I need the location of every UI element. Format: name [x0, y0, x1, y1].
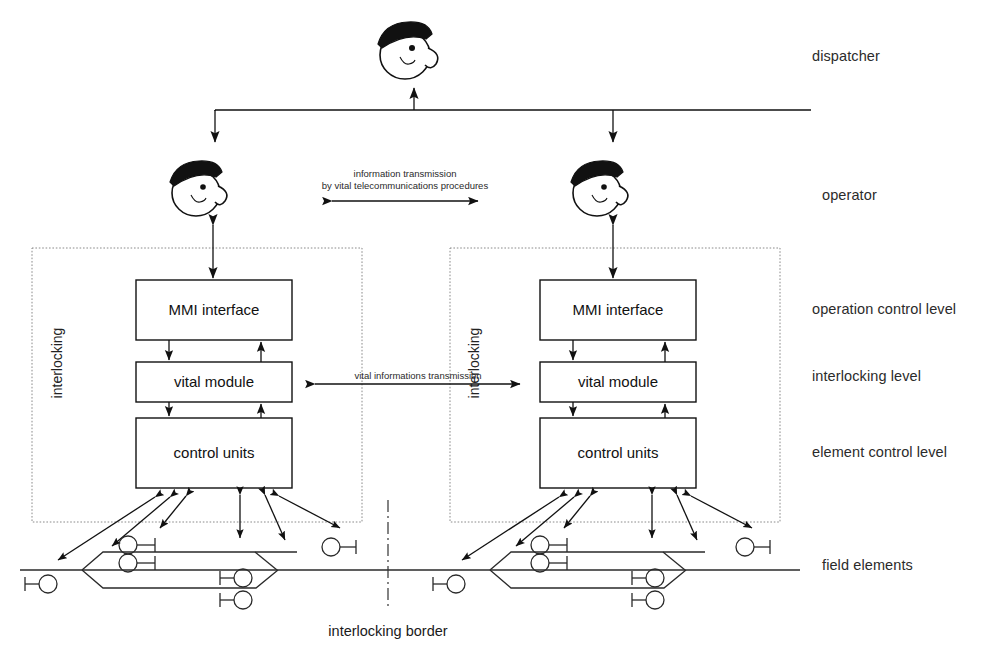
unit-label-mmi-right: MMI interface	[573, 301, 664, 318]
telecom-line-1: information transmission	[354, 168, 457, 179]
signal-icon	[433, 575, 465, 593]
signal-icon	[119, 536, 155, 554]
unit-label-control-right: control units	[578, 444, 659, 461]
level-label-interlocking: interlocking level	[812, 368, 921, 384]
field-links-left	[58, 495, 340, 560]
vital-transmission-annotation: vital informations transmission	[315, 370, 520, 384]
interlocking-group-label-right: interlocking	[466, 328, 482, 399]
unit-label-vital-right: vital module	[578, 373, 658, 390]
vital-transmission-label: vital informations transmission	[354, 370, 481, 381]
telecom-line-2: by vital telecommunications procedures	[322, 180, 489, 191]
field-links-right	[462, 495, 752, 560]
interlocking-group-label-left: interlocking	[49, 328, 65, 399]
unit-label-mmi-left: MMI interface	[169, 301, 260, 318]
dispatcher-bus-connector	[215, 88, 811, 142]
signal-icon	[220, 591, 252, 609]
unit-box-control-right: control units	[540, 418, 696, 488]
level-label-dispatcher: dispatcher	[812, 48, 880, 64]
signal-icon	[322, 538, 356, 556]
level-label-element-control: element control level	[812, 444, 947, 460]
signal-icon	[531, 536, 567, 554]
signal-icon	[632, 591, 664, 609]
level-label-operator: operator	[822, 187, 877, 203]
signal-icon	[119, 554, 155, 572]
signal-icon	[736, 538, 770, 556]
unit-box-mmi-right: MMI interface	[540, 280, 696, 340]
operator-figure-left	[170, 161, 227, 216]
signal-icon	[531, 554, 567, 572]
signal-icon	[220, 569, 252, 587]
level-label-field-elements: field elements	[822, 557, 913, 573]
diagram-canvas: information transmission by vital teleco…	[0, 0, 995, 663]
telecom-annotation: information transmission by vital teleco…	[322, 168, 489, 201]
signal-icon	[25, 575, 57, 593]
level-label-operation-control: operation control level	[812, 301, 956, 317]
signal-icon	[632, 569, 664, 587]
unit-box-control-left: control units	[136, 418, 292, 488]
unit-label-vital-left: vital module	[174, 373, 254, 390]
unit-box-vital-left: vital module	[136, 362, 292, 402]
interlocking-border-label: interlocking border	[328, 623, 447, 639]
unit-box-vital-right: vital module	[540, 362, 696, 402]
unit-label-control-left: control units	[174, 444, 255, 461]
operator-figure-right	[571, 161, 628, 216]
unit-box-mmi-left: MMI interface	[136, 280, 292, 340]
dispatcher-figure	[378, 22, 438, 79]
